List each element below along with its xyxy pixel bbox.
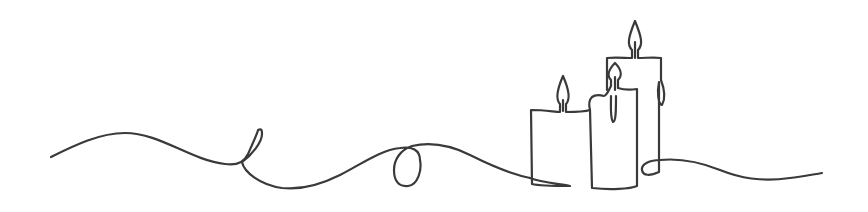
short-candle: [530, 76, 590, 186]
wave-left-with-loop: [51, 129, 530, 188]
line-art-svg: [0, 0, 868, 212]
middle-candle: [589, 63, 637, 189]
candles-line-illustration: Continuous single-line drawing of three …: [0, 0, 868, 212]
tall-candle: [607, 21, 822, 180]
middle-candle-drip: [611, 96, 616, 122]
